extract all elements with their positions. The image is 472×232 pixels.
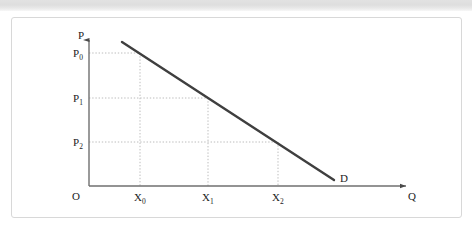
quantity-tick-x1-base: X: [202, 191, 210, 203]
quantity-tick-x0-base: X: [134, 191, 142, 203]
price-tick-p2: P2: [73, 136, 83, 151]
svg-text:X0: X0: [134, 191, 146, 206]
price-tick-p0-sub: 0: [79, 53, 83, 62]
quantity-tick-x2: X2: [272, 191, 284, 206]
price-tick-p2-sub: 2: [79, 142, 83, 151]
guide-lines-group: [89, 53, 278, 186]
demand-curve-line: [122, 42, 334, 180]
origin-label: O: [72, 190, 80, 202]
price-tick-p0: P0: [73, 47, 83, 62]
x-axis-label: Q: [408, 190, 416, 202]
demand-curve-chart: P Q O D P0 P1 P2 X0 X1 X2: [0, 0, 472, 232]
price-tick-p1-sub: 1: [79, 98, 83, 107]
demand-curve-label: D: [340, 172, 348, 184]
quantity-tick-x2-sub: 2: [280, 197, 284, 206]
svg-text:P0: P0: [73, 47, 83, 62]
svg-text:P1: P1: [73, 92, 83, 107]
quantity-tick-x1: X1: [202, 191, 214, 206]
quantity-tick-x2-base: X: [272, 191, 280, 203]
price-tick-p1: P1: [73, 92, 83, 107]
svg-text:X2: X2: [272, 191, 284, 206]
svg-text:X1: X1: [202, 191, 214, 206]
quantity-tick-x0-sub: 0: [142, 197, 146, 206]
svg-text:P2: P2: [73, 136, 83, 151]
y-axis-label: P: [78, 29, 84, 41]
quantity-tick-x0: X0: [134, 191, 146, 206]
quantity-tick-x1-sub: 1: [210, 197, 214, 206]
